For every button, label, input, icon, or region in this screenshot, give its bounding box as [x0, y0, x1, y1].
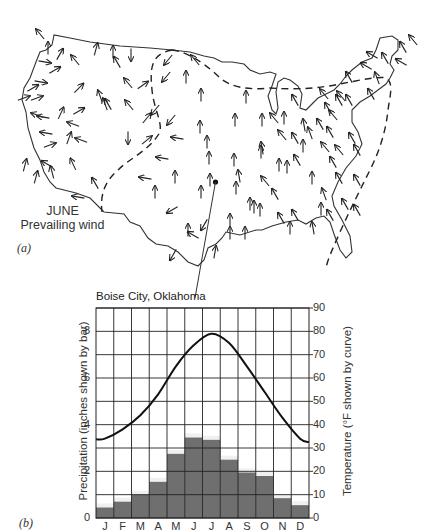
wind-arrow-icon [327, 209, 334, 220]
wind-arrow-icon [360, 63, 371, 70]
wind-arrow-icon [105, 98, 112, 109]
wind-arrow-icon [322, 188, 326, 200]
precipitation-bar [167, 454, 185, 518]
wind-arrow-icon [40, 132, 53, 134]
precipitation-bar [238, 473, 256, 519]
right-tick-label: 30 [313, 441, 325, 453]
wind-arrow-icon [278, 212, 285, 223]
wind-arrow-icon [329, 110, 337, 120]
wind-arrow-icon [23, 159, 26, 172]
wind-arrow-icon [58, 107, 63, 119]
wind-arrow-icon [278, 130, 286, 140]
precipitation-bar [203, 440, 221, 518]
left-tick-label: 0 [84, 511, 90, 523]
wind-arrow-icon [139, 177, 152, 179]
map-caption: JUNE Prevailing wind [15, 204, 110, 232]
wind-arrow-icon [349, 132, 356, 143]
right-tick-label: 40 [313, 418, 325, 430]
month-label: M [167, 520, 185, 531]
wind-arrow-icon [336, 172, 343, 183]
us-wind-map [0, 0, 432, 300]
wind-arrow-icon [292, 209, 299, 220]
pointer-line [195, 182, 216, 298]
right-tick-label: 10 [313, 488, 325, 500]
wind-arrow-icon [167, 115, 175, 125]
right-tick-label: 20 [313, 464, 325, 476]
wind-arrow-icon [71, 55, 79, 65]
wind-arrow-icon [44, 143, 56, 147]
wind-arrow-icon [18, 96, 30, 100]
left-axis-label: Precipitation (inches shown by bar) [77, 316, 89, 506]
wind-arrow-icon [72, 196, 85, 198]
right-tick-label: 80 [313, 324, 325, 336]
wind-arrow-icon [138, 81, 149, 88]
wind-arrow-icon [124, 78, 132, 88]
right-tick-label: 50 [313, 394, 325, 406]
wind-arrow-icon [317, 118, 324, 129]
wind-arrow-icon [335, 145, 343, 155]
wind-arrow-icon [187, 232, 198, 239]
month-label: M [131, 520, 149, 531]
right-tick-label: 90 [313, 301, 325, 313]
wind-arrow-icon [261, 176, 269, 186]
figure: JUNE Prevailing wind (a) Boise City, Okl… [0, 0, 432, 531]
wind-arrow-icon [31, 96, 43, 100]
wind-arrow-icon [354, 174, 361, 185]
month-label: J [96, 520, 114, 531]
wind-arrow-icon [303, 119, 305, 132]
wind-arrow-icon [98, 90, 102, 102]
precipitation-bar [256, 476, 274, 518]
right-tick-label: 60 [313, 371, 325, 383]
wind-arrow-icon [49, 67, 60, 74]
right-tick-label: 0 [313, 511, 319, 523]
right-tick-label: 70 [313, 348, 325, 360]
wind-arrow-icon [171, 137, 184, 139]
month-label: N [273, 520, 291, 531]
wind-arrow-icon [292, 132, 299, 143]
wind-arrow-icon [327, 126, 334, 137]
wind-arrow-icon [170, 249, 177, 260]
wind-arrow-icon [162, 72, 170, 82]
month-label: O [256, 520, 274, 531]
precipitation-bar [149, 482, 167, 518]
wind-arrow-icon [308, 127, 312, 139]
month-label: A [220, 520, 238, 531]
wind-arrow-icon [312, 222, 314, 235]
wind-arrow-icon [143, 113, 151, 123]
wind-arrow-icon [74, 83, 83, 92]
wind-arrow-icon [67, 132, 71, 144]
month-label: D [291, 520, 309, 531]
wind-arrow-icon [346, 94, 353, 105]
wind-arrow-icon [294, 154, 301, 165]
wind-arrow-icon [92, 177, 99, 188]
wind-arrow-icon [330, 156, 337, 167]
wind-arrow-icon [214, 246, 216, 259]
wind-arrow-icon [142, 136, 152, 144]
wind-arrow-icon [382, 52, 389, 63]
panel-label-a: (a) [17, 241, 31, 256]
wind-arrow-icon [400, 41, 407, 52]
boundary-east [172, 50, 391, 268]
wind-arrow-icon [75, 138, 87, 142]
precipitation-bar [220, 460, 238, 518]
precipitation-bar [291, 505, 309, 518]
caption-month: JUNE [15, 204, 110, 218]
wind-arrow-icon [67, 122, 79, 126]
wind-arrow-icon [272, 188, 279, 199]
precipitation-bar [96, 508, 114, 519]
wind-arrow-icon [34, 171, 37, 184]
wind-arrow-icon [114, 56, 121, 67]
wind-arrow-icon [70, 158, 75, 170]
wind-arrow-icon [270, 113, 278, 123]
wind-arrow-icon [94, 43, 97, 56]
month-label: J [202, 520, 220, 531]
precipitation-bar [274, 498, 292, 518]
month-label: A [149, 520, 167, 531]
wind-arrow-icon [342, 198, 349, 209]
wind-arrow-icon [164, 55, 172, 65]
wind-arrow-icon [50, 166, 53, 179]
wind-arrow-icon [395, 59, 406, 66]
month-label: S [238, 520, 256, 531]
month-label: J [185, 520, 203, 531]
wind-arrow-icon [36, 29, 44, 39]
